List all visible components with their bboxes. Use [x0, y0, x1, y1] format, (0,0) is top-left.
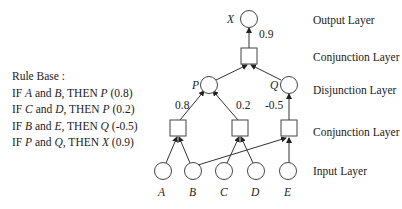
- label-b: B: [189, 186, 196, 198]
- conj-ab: [170, 120, 186, 136]
- network-diagram: A B C D E P Q X 0.8 0.2 -0.5 0.9: [0, 0, 402, 209]
- weight-be-q: -0.5: [265, 99, 283, 111]
- node-b: [185, 163, 202, 180]
- node-d: [248, 163, 265, 180]
- label-e: E: [283, 186, 291, 198]
- input-layer-label: Input Layer: [313, 165, 367, 177]
- output-layer-label: Output Layer: [313, 14, 375, 26]
- conjunction-layer-bottom-label: Conjunction Layer: [313, 126, 400, 138]
- label-p: P: [191, 79, 199, 91]
- weight-ab-p: 0.8: [175, 99, 190, 111]
- weight-cd-p: 0.2: [236, 99, 251, 111]
- conj-pq: [241, 48, 257, 64]
- node-c: [216, 163, 233, 180]
- weight-pq-x: 0.9: [259, 28, 274, 40]
- label-d: D: [250, 186, 260, 198]
- node-x: [241, 11, 258, 28]
- conjunction-layer-top-label: Conjunction Layer: [313, 51, 400, 63]
- node-a: [155, 163, 172, 180]
- node-p: [201, 77, 218, 94]
- label-q: Q: [270, 79, 279, 91]
- node-q: [281, 77, 298, 94]
- label-c: C: [220, 186, 228, 198]
- conj-be: [281, 120, 297, 136]
- label-a: A: [157, 186, 166, 198]
- label-x: X: [226, 13, 235, 25]
- conj-cd: [232, 120, 248, 136]
- disjunction-layer-label: Disjunction Layer: [313, 84, 396, 96]
- node-e: [280, 163, 297, 180]
